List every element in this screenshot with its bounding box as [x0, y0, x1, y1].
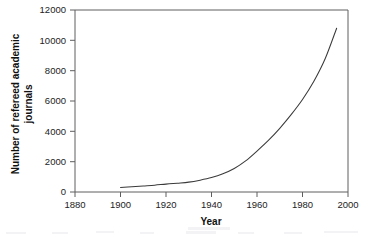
y-axis-title-line2: journals [23, 84, 34, 124]
y-axis-title-line1: Number of refereed academic [10, 33, 21, 174]
y-axis-tick-labels: 0 2000 4000 6000 8000 10000 12000 [40, 4, 66, 197]
x-axis-title: Year [200, 216, 221, 227]
x-tick-label: 1940 [201, 199, 222, 210]
x-tick-label: 1880 [64, 199, 85, 210]
x-tick-label: 1980 [292, 199, 313, 210]
line-chart: 0 2000 4000 6000 8000 10000 12000 1880 1… [0, 0, 372, 237]
x-tick-label: 1900 [110, 199, 131, 210]
y-axis-ticks [70, 10, 75, 192]
y-tick-label: 12000 [40, 4, 66, 15]
x-axis-ticks [75, 192, 348, 197]
y-axis-title: Number of refereed academic journals [10, 33, 34, 174]
scan-artifact-band [6, 227, 358, 234]
y-tick-label: 8000 [45, 65, 66, 76]
data-series-line [121, 28, 337, 187]
x-tick-label: 1960 [246, 199, 267, 210]
y-tick-label: 10000 [40, 35, 66, 46]
x-axis-tick-labels: 1880 1900 1920 1940 1960 1980 2000 [64, 199, 358, 210]
x-tick-label: 1920 [155, 199, 176, 210]
plot-frame [75, 10, 348, 192]
y-tick-label: 4000 [45, 126, 66, 137]
chart-figure: 0 2000 4000 6000 8000 10000 12000 1880 1… [0, 0, 372, 237]
y-tick-label: 6000 [45, 95, 66, 106]
y-tick-label: 0 [61, 186, 66, 197]
y-tick-label: 2000 [45, 156, 66, 167]
x-tick-label: 2000 [337, 199, 358, 210]
